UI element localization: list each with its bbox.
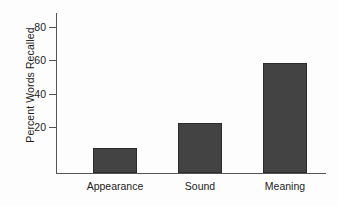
- y-tick-40: [49, 94, 56, 95]
- y-axis-line: [56, 13, 57, 174]
- y-tick-label-80: 80: [2, 21, 46, 33]
- y-tick-20: [49, 127, 56, 128]
- bar-appearance: [93, 148, 137, 173]
- x-label-meaning: Meaning: [225, 180, 338, 192]
- y-tick-label-20: 20: [2, 121, 46, 133]
- bar-meaning: [263, 63, 307, 173]
- x-axis-line: [56, 173, 326, 174]
- bar-sound: [178, 123, 222, 173]
- y-tick-label-60: 60: [2, 54, 46, 66]
- y-tick-60: [49, 60, 56, 61]
- y-tick-80: [49, 27, 56, 28]
- y-tick-label-40: 40: [2, 88, 46, 100]
- bar-chart: Percent Words Recalled 80 60 40 20 Appea…: [0, 0, 338, 206]
